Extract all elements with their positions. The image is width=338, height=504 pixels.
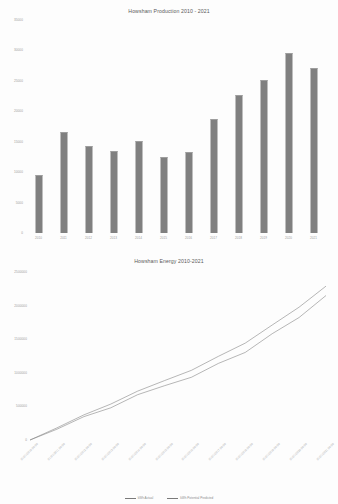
bar-chart-x-tick-label: 2011 xyxy=(60,236,67,240)
bar-chart-plot-area: 05000100001500020000250003000035000 2010… xyxy=(26,20,326,233)
bar-chart-bar xyxy=(110,151,117,233)
bar-chart-bar xyxy=(260,80,267,233)
bar-chart-y-tick-label: 20000 xyxy=(14,109,26,113)
bar-chart-bar xyxy=(210,119,217,233)
bar-chart-title: Howsham Production 2010 - 2021 xyxy=(0,8,338,14)
bar-chart-x-tick-label: 2019 xyxy=(260,236,267,240)
line-chart-x-tick-label: 01/01/2016 00:00 xyxy=(181,442,200,461)
bar-chart-bar xyxy=(185,152,192,233)
bar-chart-y-tick-label: 10000 xyxy=(14,170,26,174)
document-page: Howsham Production 2010 - 2021 050001000… xyxy=(0,0,338,504)
bar-chart-x-tick-label: 2018 xyxy=(235,236,242,240)
line-chart-x-tick-label: 01/01/2012 00:00 xyxy=(73,442,92,461)
line-chart-title: Howsham Energy 2010-2021 xyxy=(0,258,338,264)
bar-chart-bar xyxy=(85,146,92,233)
line-chart-y-tick-label: 1000000 xyxy=(14,371,30,375)
line-chart-x-tick-label: 01/01/2014 00:00 xyxy=(127,442,146,461)
legend-label: kWh Actual xyxy=(138,496,153,500)
bar-chart-bar xyxy=(310,68,317,233)
legend-line-swatch-icon xyxy=(167,498,178,499)
bar-chart-bar xyxy=(160,157,167,233)
legend-line-swatch-icon xyxy=(125,498,136,499)
line-chart-x-tick-label: 01/01/2013 00:00 xyxy=(100,442,119,461)
bar-chart-bar xyxy=(35,175,42,233)
line-chart-x-tick-label: 01/01/2021 00:00 xyxy=(316,442,335,461)
bar-chart-y-tick-label: 15000 xyxy=(14,140,26,144)
line-chart-x-tick-label: 01/01/2015 00:00 xyxy=(154,442,173,461)
bar-chart-y-tick-label: 25000 xyxy=(14,79,26,83)
bar-chart-bar xyxy=(60,132,67,233)
bar-chart-x-tick-label: 2012 xyxy=(85,236,92,240)
bar-chart-y-tick-label: 0 xyxy=(21,231,26,235)
line-chart-y-tick-label: 500000 xyxy=(16,404,30,408)
line-chart-x-tick-label: 01/01/2010 00:00 xyxy=(20,442,39,461)
legend-label: kWh Potential Predicted xyxy=(180,496,213,500)
legend-item[interactable]: kWh Actual xyxy=(125,496,153,500)
bar-chart-bar xyxy=(285,53,292,233)
bar-chart-x-tick-label: 2013 xyxy=(110,236,117,240)
line-chart-plot-area: 05000001000000150000020000002500000 01/0… xyxy=(30,272,326,440)
line-chart: Howsham Energy 2010-2021 050000010000001… xyxy=(0,250,338,504)
bar-chart-x-tick-label: 2015 xyxy=(160,236,167,240)
bar-chart-x-tick-label: 2017 xyxy=(210,236,217,240)
bar-chart-y-tick-label: 5000 xyxy=(16,201,26,205)
bar-chart-x-tick-label: 2010 xyxy=(35,236,42,240)
line-chart-series-svg xyxy=(30,272,326,440)
bar-chart-x-tick-label: 2014 xyxy=(135,236,142,240)
bar-chart: Howsham Production 2010 - 2021 050001000… xyxy=(0,0,338,250)
line-chart-legend: kWh ActualkWh Potential Predicted xyxy=(0,496,338,500)
bar-chart-y-tick-label: 35000 xyxy=(14,18,26,22)
bar-chart-bar xyxy=(135,141,142,233)
line-chart-x-tick-label: 01/01/2020 00:00 xyxy=(289,442,308,461)
line-chart-series-2 xyxy=(30,286,326,440)
bar-chart-x-tick-label: 2016 xyxy=(185,236,192,240)
line-chart-x-tick-label: 01/01/2011 00:00 xyxy=(47,442,66,461)
line-chart-x-tick-label: 01/01/2019 00:00 xyxy=(262,442,281,461)
bar-chart-x-tick-label: 2020 xyxy=(285,236,292,240)
line-chart-series-1 xyxy=(30,296,326,440)
line-chart-x-tick-label: 01/01/2018 00:00 xyxy=(235,442,254,461)
bar-chart-x-tick-label: 2021 xyxy=(310,236,317,240)
line-chart-y-tick-label: 2500000 xyxy=(14,270,30,274)
line-chart-x-tick-label: 01/01/2017 00:00 xyxy=(208,442,227,461)
line-chart-y-tick-label: 1500000 xyxy=(14,337,30,341)
legend-item[interactable]: kWh Potential Predicted xyxy=(167,496,213,500)
line-chart-y-tick-label: 2000000 xyxy=(14,304,30,308)
bar-chart-bar xyxy=(235,95,242,233)
bar-chart-y-tick-label: 30000 xyxy=(14,48,26,52)
